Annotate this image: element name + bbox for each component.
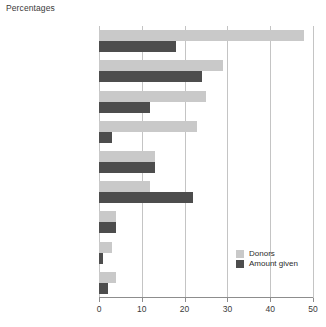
x-tick-10: [142, 298, 143, 302]
bar-donors-6: [99, 211, 116, 222]
bar-donors-5: [99, 181, 150, 192]
x-tick-label-20: 20: [180, 304, 189, 314]
bar-group: [99, 121, 313, 143]
x-tick-40: [270, 298, 271, 302]
bar-group: [99, 91, 313, 113]
bar-amount-given-4: [99, 162, 155, 173]
bar-amount-given-0: [99, 41, 176, 52]
x-tick-20: [185, 298, 186, 302]
x-tick-label-0: 0: [97, 304, 102, 314]
bar-group: [99, 60, 313, 82]
legend-swatch-icon: [236, 250, 244, 258]
bar-donors-1: [99, 60, 223, 71]
bar-amount-given-3: [99, 132, 112, 143]
x-axis: 01020304050: [99, 298, 313, 320]
legend-swatch-icon: [236, 260, 244, 268]
bar-donors-8: [99, 272, 116, 283]
bar-donors-7: [99, 242, 112, 253]
bar-donors-2: [99, 91, 206, 102]
bar-amount-given-1: [99, 71, 202, 82]
chart-title: Percentages: [6, 3, 55, 13]
bar-group: [99, 30, 313, 52]
bar-amount-given-7: [99, 253, 103, 264]
bar-donors-4: [99, 151, 155, 162]
legend-label: Donors: [249, 249, 275, 258]
x-tick-label-50: 50: [308, 304, 317, 314]
legend-label: Amount given: [249, 259, 298, 268]
bar-group: [99, 211, 313, 233]
bar-amount-given-2: [99, 102, 150, 113]
bar-group: [99, 151, 313, 173]
gridline-50: [313, 26, 314, 298]
x-tick-0: [99, 298, 100, 302]
x-tick-label-30: 30: [223, 304, 232, 314]
x-tick-50: [313, 298, 314, 302]
chart-legend: DonorsAmount given: [236, 249, 298, 269]
legend-item-amount-given[interactable]: Amount given: [236, 259, 298, 269]
bar-group: [99, 272, 313, 294]
bar-donors-3: [99, 121, 197, 132]
legend-item-donors[interactable]: Donors: [236, 249, 298, 259]
bar-amount-given-8: [99, 283, 108, 294]
bar-donors-0: [99, 30, 304, 41]
x-tick-label-10: 10: [137, 304, 146, 314]
bar-group: [99, 181, 313, 203]
bar-amount-given-6: [99, 222, 116, 233]
x-tick-30: [227, 298, 228, 302]
x-tick-label-40: 40: [265, 304, 274, 314]
bar-amount-given-5: [99, 192, 193, 203]
